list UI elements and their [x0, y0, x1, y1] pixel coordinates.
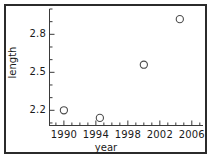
- data-point: [96, 114, 103, 121]
- data-point: [60, 107, 67, 114]
- x-tick-label: 2006: [172, 129, 212, 140]
- y-axis-label: length: [7, 41, 18, 85]
- data-points: [60, 16, 183, 122]
- data-point: [140, 61, 147, 68]
- x-axis-ticks: [56, 121, 200, 126]
- x-axis-label: year: [76, 142, 136, 153]
- y-tick-label: 2.5: [14, 66, 46, 77]
- data-point: [176, 16, 183, 23]
- y-tick-label: 2.8: [14, 28, 46, 39]
- y-axis-ticks: [50, 9, 55, 123]
- y-tick-label: 2.2: [14, 104, 46, 115]
- axis-lines: [49, 9, 203, 126]
